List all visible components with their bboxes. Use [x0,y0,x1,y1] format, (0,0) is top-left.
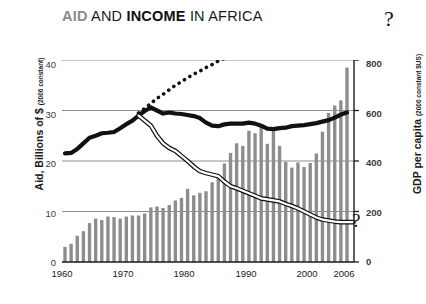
left-tick-0: 0 [32,257,56,268]
bar [284,162,287,262]
bar [82,231,85,262]
bar [333,105,336,262]
bar [106,217,109,262]
bar [327,113,330,262]
bar [296,163,299,262]
chart-svg [62,60,362,270]
left-tick-30: 30 [32,109,56,120]
bar [143,214,146,262]
bar [168,205,171,262]
bar [125,217,128,262]
bar [192,195,195,262]
right-tick-400: 400 [366,157,396,168]
left-tick-20: 20 [32,158,56,169]
title-part-aid: AID [62,8,88,24]
bar [100,220,103,262]
plot-area [62,60,350,262]
bar [131,216,134,262]
bar [259,127,262,262]
bar [247,131,250,262]
bar [204,191,207,262]
bar [198,193,201,262]
title-part-income: INCOME [126,8,185,24]
right-axis-title-sub: (2000 constant $US) [415,54,422,116]
chart-page: AID AND INCOME IN AFRICA Aid, Billions o… [0,0,426,304]
title-part-region: IN AFRICA [186,8,263,24]
left-tick-40: 40 [32,59,56,70]
left-tick-10: 10 [32,208,56,219]
bar [161,208,164,262]
right-tick-600: 600 [366,108,396,119]
bar [155,206,158,262]
bar [88,223,91,262]
right-tick-200: 200 [366,207,396,218]
bar-series [63,68,348,262]
bar [63,247,66,262]
bar [112,217,115,262]
bar [290,168,293,262]
left-axis-title-main: Aid, Billions of $ [33,108,45,190]
right-tick-0: 0 [366,256,396,267]
actual-question-mark-icon: ? [352,210,360,232]
bar [272,131,275,262]
right-axis-title: GDP per capita (2000 constant $US) [411,29,423,219]
bar [266,144,269,262]
bar [339,100,342,262]
projection-question-mark-icon: ? [384,6,394,32]
bar [94,219,97,262]
bar [210,182,213,262]
bar [76,236,79,262]
bar [149,207,152,262]
bar [321,132,324,262]
bar [315,153,318,262]
right-tick-800: 800 [366,58,396,69]
gdp-actual-line [65,107,347,153]
bar [229,153,232,262]
page-title: AID AND INCOME IN AFRICA [62,8,263,24]
gdp-projection-dotted-line [139,60,354,113]
bar [174,200,177,262]
right-axis-title-main: GDP per capita [411,119,423,194]
title-part-and: AND [88,8,127,24]
bar [241,146,244,262]
bar [180,198,183,262]
bar [345,68,348,262]
bar [186,189,189,262]
bar [217,175,220,262]
bar [69,244,72,262]
bar [235,143,238,262]
bar [118,219,121,262]
bar [137,216,140,262]
